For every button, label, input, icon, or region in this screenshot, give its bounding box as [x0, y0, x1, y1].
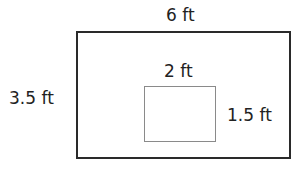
inner-height-label: 1.5 ft	[227, 105, 272, 125]
outer-width-label: 6 ft	[166, 5, 195, 25]
inner-rectangle	[144, 86, 216, 142]
inner-width-label: 2 ft	[164, 61, 193, 81]
outer-height-label: 3.5 ft	[9, 88, 54, 108]
